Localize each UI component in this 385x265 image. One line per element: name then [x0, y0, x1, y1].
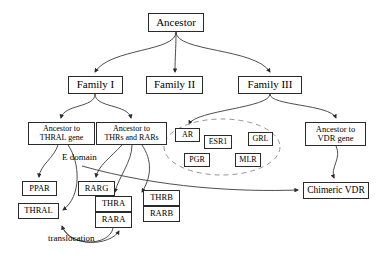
edge-ancthrrar-rarg	[96, 145, 122, 177]
node-ppar[interactable]: PPAR	[22, 181, 57, 196]
node-ancestor-to-vdr-gene[interactable]: Ancestor to VDR gene	[305, 122, 366, 146]
node-chimeric-vdr[interactable]: Chimeric VDR	[303, 182, 369, 199]
node-esr1[interactable]: ESR1	[204, 135, 232, 149]
evolution-diagram: Ancestor Family I Family II Family III A…	[0, 0, 385, 265]
edge-family1-ancthral	[61, 94, 95, 118]
node-thrb[interactable]: THRB	[143, 190, 180, 206]
node-thra[interactable]: THRA	[95, 196, 132, 212]
edge-family3-ar	[189, 94, 270, 124]
edge-label-e-domain: E domain	[62, 152, 97, 162]
node-ancestor-to-thrs-and-rars[interactable]: Ancestor to THRs and RARs	[96, 122, 167, 145]
node-rarg[interactable]: RARG	[78, 181, 115, 196]
node-ancestor-to-thral-gene[interactable]: Ancestor to THRAL gene	[28, 122, 95, 145]
edge-ancvdr-chimeric	[333, 146, 338, 178]
node-grl[interactable]: GRL	[248, 132, 273, 146]
node-family-3[interactable]: Family III	[238, 76, 302, 94]
node-thral[interactable]: THRAL	[18, 203, 59, 219]
node-ar[interactable]: AR	[175, 128, 200, 142]
edge-ancthral-ppar	[39, 145, 58, 177]
node-family-2[interactable]: Family II	[146, 76, 203, 94]
node-ancestor[interactable]: Ancestor	[148, 13, 204, 32]
node-pgr[interactable]: PGR	[184, 153, 210, 167]
edge-family1-ancthrrar	[95, 94, 131, 118]
node-rara[interactable]: RARA	[95, 212, 132, 228]
node-family-1[interactable]: Family I	[68, 76, 123, 94]
edge-ancestor-family2	[175, 32, 176, 72]
node-rarb[interactable]: RARB	[143, 206, 180, 222]
edge-family3-ancvdr	[270, 94, 336, 118]
edge-ancthrrar-thrb	[142, 145, 150, 192]
edge-ancestor-family3	[176, 32, 270, 72]
edge-label-translocation: translocation	[48, 233, 95, 243]
edge-ancestor-family1	[95, 32, 176, 72]
node-mlr[interactable]: MLR	[235, 153, 261, 167]
edge-ancthrrar-thra	[115, 145, 132, 192]
